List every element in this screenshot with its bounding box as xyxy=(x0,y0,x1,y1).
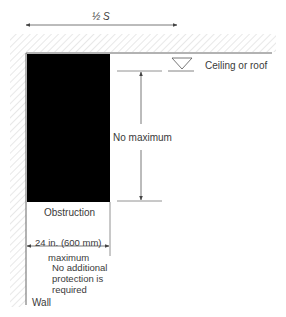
wall-hatch xyxy=(10,52,26,307)
diagram-canvas xyxy=(0,0,286,317)
wall-label: Wall xyxy=(32,297,51,308)
obstruction-label: Obstruction xyxy=(44,207,95,218)
no-maximum-label: No maximum xyxy=(113,132,172,143)
obstruction xyxy=(27,54,110,202)
note-line-3: required xyxy=(52,284,87,295)
note-line-2: protection is xyxy=(52,273,103,284)
note-line-1: No additional xyxy=(52,262,107,273)
half-s-label: ½ S xyxy=(92,11,110,22)
width-label: 24 in. (600 mm) xyxy=(35,237,102,248)
ceiling-label: Ceiling or roof xyxy=(205,60,267,71)
ceiling-hatch xyxy=(10,34,276,52)
ceiling-symbol-icon xyxy=(172,58,192,69)
